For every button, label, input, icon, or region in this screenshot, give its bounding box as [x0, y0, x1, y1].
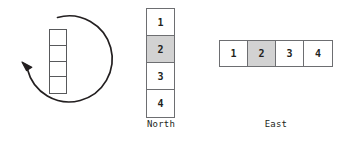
east-diagram: 1 2 3 4: [219, 40, 333, 67]
east-cell-4[interactable]: 4: [304, 41, 332, 66]
rotation-cell: [50, 46, 66, 62]
rotation-column: [49, 29, 67, 94]
rotation-cell: [50, 30, 66, 46]
north-caption: North: [141, 119, 181, 129]
east-row: 1 2 3 4: [219, 40, 333, 67]
north-cell-1[interactable]: 1: [147, 9, 174, 36]
east-cell-1[interactable]: 1: [220, 41, 248, 66]
east-cell-2[interactable]: 2: [248, 41, 276, 66]
diagram-canvas: 1 2 3 4 North 1 2 3 4 East: [0, 0, 348, 142]
east-caption: East: [255, 119, 297, 129]
rotation-cell: [50, 62, 66, 78]
rotation-diagram: [0, 0, 120, 142]
north-diagram: 1 2 3 4: [146, 8, 175, 118]
east-cell-3[interactable]: 3: [276, 41, 304, 66]
north-column: 1 2 3 4: [146, 8, 175, 118]
north-cell-4[interactable]: 4: [147, 90, 174, 117]
north-cell-2[interactable]: 2: [147, 36, 174, 63]
rotation-cell: [50, 77, 66, 93]
north-cell-3[interactable]: 3: [147, 63, 174, 90]
